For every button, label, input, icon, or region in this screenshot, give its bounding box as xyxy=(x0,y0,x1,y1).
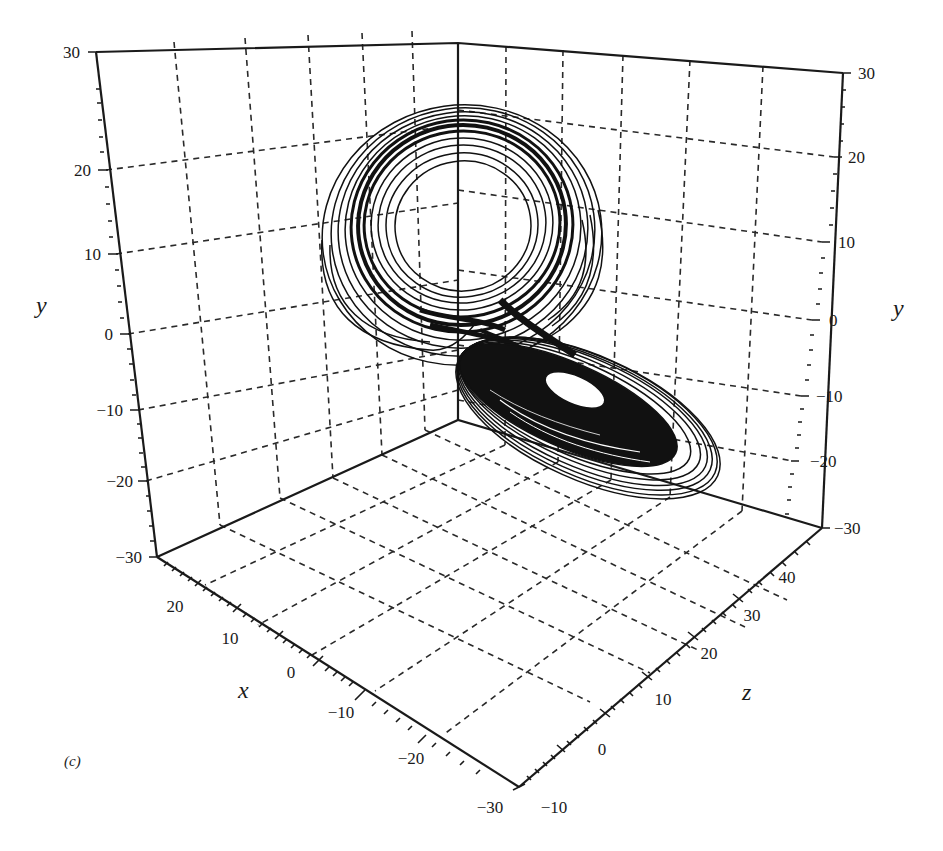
upper-lobe xyxy=(305,87,618,383)
z-axis-label: z xyxy=(741,679,752,705)
lorenz-attractor-chart: 30 20 10 0 −10 −20 −30 30 20 10 0 −10 −2… xyxy=(0,0,943,851)
box-edges xyxy=(96,43,843,787)
y-right-tick-0: 0 xyxy=(829,311,838,330)
y-left-tick-10: 10 xyxy=(84,245,101,264)
y-right-tick-neg10: −10 xyxy=(816,387,843,406)
z-tick-0: 0 xyxy=(598,740,607,759)
y-right-tick-neg30: −30 xyxy=(834,519,861,538)
y-right-tick-10: 10 xyxy=(838,233,855,252)
z-tick-10: 10 xyxy=(655,690,672,709)
panel-label: (c) xyxy=(64,753,81,770)
lower-lobe xyxy=(433,304,743,533)
floor-grid xyxy=(205,430,787,735)
x-tick-neg30: −30 xyxy=(477,798,504,817)
x-tick-10: 10 xyxy=(222,629,239,648)
y-axis-label-left: y xyxy=(34,292,47,318)
y-left-tick-labels: 30 20 10 0 −10 −20 −30 xyxy=(63,43,142,567)
z-tick-labels: −10 0 10 20 30 40 xyxy=(541,568,796,817)
trajectory xyxy=(305,87,743,533)
x-tick-labels: 20 10 0 −10 −20 −30 xyxy=(167,597,504,817)
x-tick-20: 20 xyxy=(167,597,184,616)
y-left-tick-neg10: −10 xyxy=(96,401,123,420)
z-tick-40: 40 xyxy=(779,568,796,587)
y-right-tick-20: 20 xyxy=(848,148,865,167)
y-left-tick-neg20: −20 xyxy=(106,472,133,491)
x-tick-0: 0 xyxy=(287,663,296,682)
z-tick-20: 20 xyxy=(701,644,718,663)
x-tick-neg10: −10 xyxy=(328,703,355,722)
y-axis-label-right: y xyxy=(891,295,904,321)
y-left-tick-20: 20 xyxy=(74,161,91,180)
y-left-tick-0: 0 xyxy=(105,325,114,344)
z-tick-30: 30 xyxy=(744,606,761,625)
y-right-tick-neg20: −20 xyxy=(810,452,837,471)
y-left-tick-30: 30 xyxy=(63,43,80,62)
z-tick-neg10: −10 xyxy=(541,798,568,817)
y-left-tick-neg30: −30 xyxy=(115,548,142,567)
y-right-tick-labels: 30 20 10 0 −10 −20 −30 xyxy=(810,64,875,538)
x-tick-neg20: −20 xyxy=(398,749,425,768)
x-axis-label: x xyxy=(237,677,249,703)
left-wall-grid xyxy=(106,31,458,525)
y-right-tick-30: 30 xyxy=(858,64,875,83)
